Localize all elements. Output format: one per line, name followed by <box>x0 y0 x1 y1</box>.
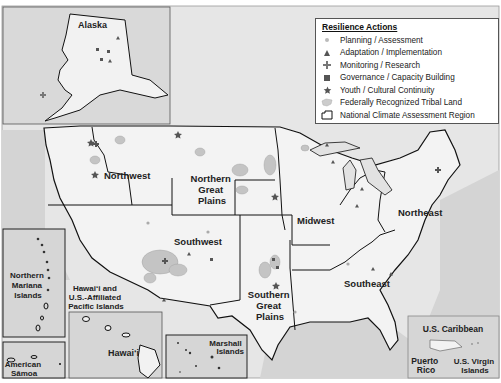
american-samoa-inset: American Sāmoa <box>3 342 65 378</box>
hawaii-label: Hawai‘i <box>108 348 139 358</box>
legend-item-governance: Governance / Capacity Building <box>320 72 494 85</box>
square-marker <box>276 266 279 269</box>
star-icon <box>320 86 334 95</box>
circle-marker <box>206 230 209 233</box>
legend-label: Youth / Cultural Continuity <box>340 86 434 95</box>
tribal-land <box>115 136 125 144</box>
region-outline-icon <box>320 110 334 120</box>
legend-item-tribal-land: Federally Recognized Tribal Land <box>320 97 494 110</box>
circle-marker <box>146 221 149 224</box>
region-label-southwest: Southwest <box>174 236 223 247</box>
plus-icon <box>320 61 334 69</box>
region-label-southeast: Southeast <box>344 278 391 289</box>
alaska-inset: Alaska <box>3 7 170 124</box>
tribal-land <box>169 264 187 276</box>
tribal-land <box>232 164 248 176</box>
legend-item-planning: Planning / Assessment <box>320 34 494 47</box>
legend-item-youth: Youth / Cultural Continuity <box>320 84 494 97</box>
alaska-label: Alaska <box>78 20 108 30</box>
region-label-northeast: Northeast <box>398 207 443 218</box>
square-marker <box>210 258 213 261</box>
legend-item-monitoring: Monitoring / Research <box>320 59 494 72</box>
svg-text:Northern Mariana I: Northern Mariana Islands <box>10 271 46 300</box>
circle-marker <box>346 262 349 265</box>
legend-title: Resilience Actions <box>322 22 494 32</box>
square-icon <box>320 74 334 82</box>
circle-marker <box>293 310 296 313</box>
tribal-land <box>301 145 309 151</box>
legend-label: Planning / Assessment <box>340 36 423 45</box>
hawaii-inset: Hawai‘i <box>69 312 162 378</box>
northern-mariana-inset: Northern Mariana Islands <box>3 229 65 337</box>
tribal-land <box>264 155 276 175</box>
tribal-land-icon <box>320 98 334 107</box>
legend-label: Adaptation / Implementation <box>340 48 442 57</box>
legend-label: Federally Recognized Tribal Land <box>340 98 462 107</box>
legend: Resilience Actions Planning / Assessment… <box>315 18 499 124</box>
marshall-islands-inset: Marshall Islands <box>166 335 247 378</box>
legend-label: Monitoring / Research <box>340 61 420 70</box>
legend-label: National Climate Assessment Region <box>340 111 475 120</box>
circle-icon <box>320 36 334 44</box>
region-label-northwest: Northwest <box>104 170 151 181</box>
caribbean-title: U.S. Caribbean <box>423 324 483 334</box>
legend-item-region: National Climate Assessment Region <box>320 109 494 122</box>
tribal-land <box>90 156 100 164</box>
triangle-icon <box>320 49 334 57</box>
legend-item-adaptation: Adaptation / Implementation <box>320 47 494 60</box>
caribbean-inset: U.S. Caribbean Puerto Rico U.S. Virgin I… <box>408 316 499 378</box>
square-marker <box>272 258 275 261</box>
region-label-midwest: Midwest <box>297 215 335 226</box>
hawaii-pacific-label: Hawai‘i and U.S.-Affiliated Pacific Isla… <box>68 284 124 311</box>
tribal-land <box>195 148 205 156</box>
tribal-land <box>259 262 271 278</box>
legend-label: Governance / Capacity Building <box>340 73 455 82</box>
tribal-land <box>236 186 248 194</box>
tribal-land <box>144 273 156 283</box>
